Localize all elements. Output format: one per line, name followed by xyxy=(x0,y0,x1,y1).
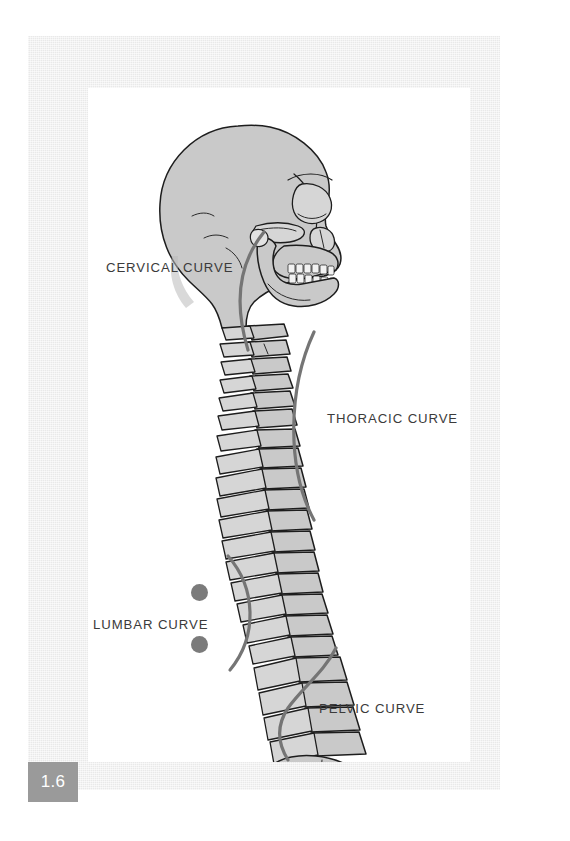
label-thoracic-curve: THORACIC CURVE xyxy=(327,411,458,426)
figure-number-badge: 1.6 xyxy=(28,762,78,802)
thoracic-vertebrae xyxy=(216,448,338,664)
sacrum-coccyx xyxy=(231,755,364,762)
figure-plate: .bone{fill:#c9c9c9;stroke:#1d1d1d;stroke… xyxy=(0,0,570,841)
lumbar-marker-dot-bottom xyxy=(191,636,208,653)
label-cervical-curve: CERVICAL CURVE xyxy=(106,260,233,275)
lumbar-marker-dot-top xyxy=(191,584,208,601)
cervical-vertebrae xyxy=(217,324,300,451)
label-lumbar-curve: LUMBAR CURVE xyxy=(93,617,208,632)
skull-group xyxy=(160,125,341,328)
label-pelvic-curve: PELVIC CURVE xyxy=(319,701,425,716)
